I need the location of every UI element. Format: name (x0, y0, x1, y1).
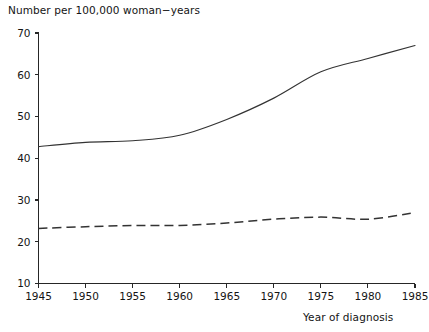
y-tick-label: 50 (17, 110, 30, 122)
x-tick-label: 1950 (72, 290, 99, 302)
x-axis-ticks: 194519501955196019651970197519801985 (25, 284, 428, 302)
y-tick-label: 30 (17, 194, 30, 206)
axes-group (38, 33, 415, 284)
chart-figure: Number per 100,000 woman−years 102030405… (0, 0, 429, 332)
x-axis-title: Year of diagnosis (303, 311, 393, 323)
x-tick-label: 1945 (25, 290, 52, 302)
line-chart-plot: 10203040506070 1945195019551960196519701… (0, 0, 429, 332)
data-series-group (39, 46, 416, 229)
x-tick-label: 1985 (402, 290, 429, 302)
x-tick-label: 1980 (355, 290, 382, 302)
y-tick-label: 10 (17, 277, 30, 289)
series-line-dashed-series (39, 213, 416, 229)
x-tick-label: 1955 (119, 290, 146, 302)
x-tick-label: 1975 (308, 290, 335, 302)
y-tick-label: 70 (17, 27, 30, 39)
y-tick-label: 60 (17, 69, 30, 81)
y-tick-label: 20 (17, 236, 30, 248)
series-line-solid-series (39, 46, 416, 147)
y-axis-ticks: 10203040506070 (17, 27, 38, 290)
x-tick-label: 1965 (213, 290, 240, 302)
y-tick-label: 40 (17, 152, 30, 164)
x-tick-label: 1970 (260, 290, 287, 302)
x-tick-label: 1960 (166, 290, 193, 302)
